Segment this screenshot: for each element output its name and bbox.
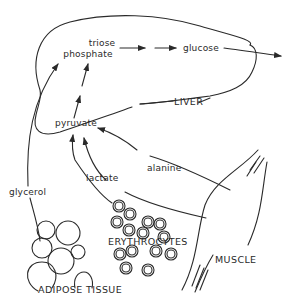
muscle-outline-2 bbox=[248, 162, 267, 245]
label-glycerol: glycerol bbox=[9, 187, 46, 197]
arrow-pyruvate-triose-1 bbox=[74, 96, 80, 118]
label-triose: triose bbox=[72, 38, 132, 48]
label-lactate: lactate bbox=[86, 173, 118, 183]
arrow-glycerol-triose bbox=[28, 64, 58, 186]
label-erythrocytes: ERYTHROCYTES bbox=[108, 237, 188, 247]
liver-leader bbox=[140, 101, 173, 104]
tendon-line bbox=[254, 158, 264, 173]
label-phosphate: phosphate bbox=[58, 49, 118, 59]
adipose-cells bbox=[27, 221, 92, 291]
muscle-outline-3 bbox=[195, 255, 213, 292]
liver-outline bbox=[35, 16, 256, 134]
arrow-glucose-out bbox=[224, 48, 281, 56]
label-glucose: glucose bbox=[183, 43, 219, 53]
label-adipose-tissue: ADIPOSE TISSUE bbox=[38, 285, 122, 295]
tendon-line bbox=[247, 162, 256, 176]
label-pyruvate: pyruvate bbox=[55, 118, 97, 128]
muscle-outline bbox=[182, 150, 258, 290]
arrow-lactate-rbc-pyruvate bbox=[72, 135, 112, 203]
label-muscle: MUSCLE bbox=[215, 255, 257, 265]
label-liver: LIVER bbox=[174, 97, 203, 107]
arrow-pyruvate-triose-2 bbox=[82, 64, 88, 86]
label-alanine: alanine bbox=[147, 163, 181, 173]
